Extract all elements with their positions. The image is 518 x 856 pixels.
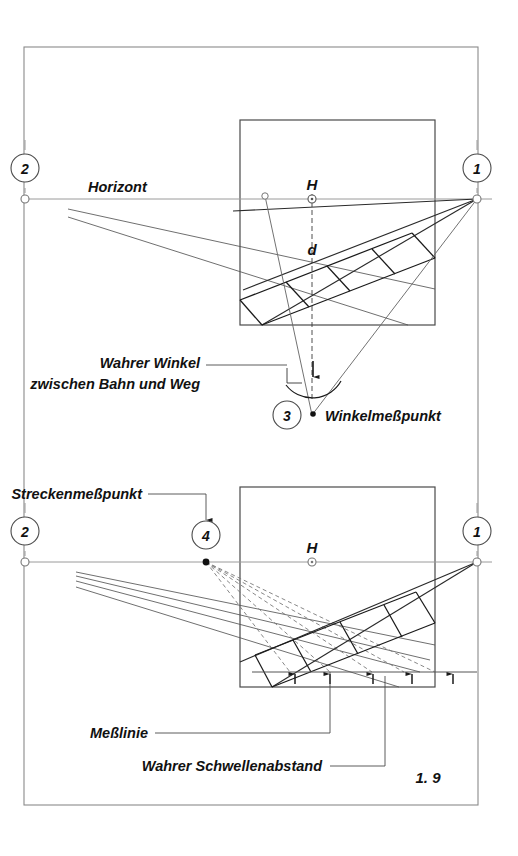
upper-vp2-callout-label: 2 (20, 161, 29, 177)
upper-h-label: H (307, 176, 319, 193)
distance-point-callout-label: 4 (201, 528, 210, 544)
angle-measuring-point-dot (310, 411, 316, 417)
wahrer-schwellenabstand-label: Wahrer Schwellenabstand (142, 758, 323, 774)
upper-center-point-h-dot (311, 198, 314, 201)
upper-vp1-point (473, 195, 481, 203)
distance-d-label: d (307, 241, 317, 258)
upper-auxiliary-point (262, 193, 268, 199)
lower-vp1-point (473, 558, 481, 566)
drawing-sheet: 2 1 3 H d Horizont Wahrer Winkel zwische… (0, 0, 518, 856)
winkelmesspunkt-label: Winkelmeßpunkt (325, 408, 442, 424)
streckenmesspunkt-dot (203, 559, 210, 566)
horizont-label: Horizont (88, 179, 148, 195)
lower-vp2-callout-label: 2 (20, 524, 29, 540)
angle-point-callout-label: 3 (283, 408, 291, 424)
lower-vp2-point (21, 558, 29, 566)
lower-vp1-callout-label: 1 (473, 524, 481, 540)
paper-background (0, 0, 518, 856)
upper-vp2-point (21, 195, 29, 203)
lower-h-label: H (307, 539, 319, 556)
perspective-drawing-svg: 2 1 3 H d Horizont Wahrer Winkel zwische… (0, 0, 518, 856)
wahrer-winkel-label-line1: Wahrer Winkel (100, 355, 201, 371)
messlinie-label: Meßlinie (90, 725, 148, 741)
upper-vp1-callout-label: 1 (473, 161, 481, 177)
lower-center-point-h-dot (311, 561, 314, 564)
streckenmesspunkt-label: Streckenmeßpunkt (11, 486, 143, 502)
figure-number: 1. 9 (415, 769, 441, 786)
wahrer-winkel-label-line2: zwischen Bahn und Weg (29, 376, 200, 392)
